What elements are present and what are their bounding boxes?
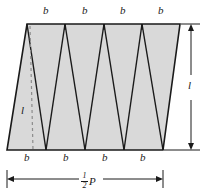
width-arrow-right <box>156 176 163 182</box>
height-arrow-bottom <box>188 143 194 150</box>
diagram-canvas: b b b b b b b b l l 1 2 P <box>0 0 208 191</box>
bottom-base-label-3: b <box>102 152 108 163</box>
height-arrow-top <box>188 24 194 31</box>
bottom-base-label-2: b <box>63 152 69 163</box>
half-fraction: 1 2 <box>81 172 88 191</box>
top-base-label-4: b <box>158 5 164 16</box>
fraction-numerator: 1 <box>83 172 87 180</box>
top-base-label-1: b <box>43 5 49 16</box>
right-height-label: l <box>188 80 191 91</box>
fraction-denominator: 2 <box>83 182 87 190</box>
parallelogram-fill <box>7 24 180 150</box>
half-perimeter-label: 1 2 P <box>79 172 98 191</box>
interior-height-label: l <box>21 105 24 116</box>
perimeter-symbol: P <box>89 176 96 187</box>
width-arrow-left <box>7 176 14 182</box>
bottom-base-label-1: b <box>24 152 30 163</box>
top-base-label-2: b <box>82 5 88 16</box>
top-base-label-3: b <box>120 5 126 16</box>
bottom-base-label-4: b <box>140 152 146 163</box>
